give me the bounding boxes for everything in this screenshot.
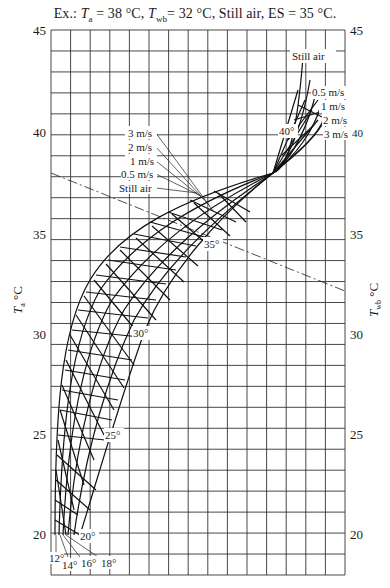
ytick-left-20: 20 bbox=[33, 527, 46, 542]
ytick-left-40: 40 bbox=[33, 125, 46, 140]
ytick-right-45: 45 bbox=[350, 23, 363, 38]
velocity-labels-left: 3 m/s 2 m/s 1 m/s 0.5 m/s Still air bbox=[117, 126, 157, 194]
et-label-20: 20° bbox=[80, 530, 95, 542]
grid bbox=[51, 30, 345, 575]
ytick-right-30: 30 bbox=[350, 327, 363, 342]
y-axis-right-title: Twb °C bbox=[366, 283, 383, 317]
velocity-still-air-top: Still air bbox=[292, 50, 325, 62]
velocity-still-air-left: Still air bbox=[119, 182, 152, 194]
ytick-left-35: 35 bbox=[33, 227, 46, 242]
ytick-right-20: 20 bbox=[350, 527, 363, 542]
velocity-2-left: 2 m/s bbox=[128, 141, 152, 153]
et-label-16: 16° bbox=[81, 557, 96, 569]
velocity-3-top: 3 m/s bbox=[324, 128, 348, 140]
ytick-right-25: 25 bbox=[350, 427, 363, 442]
right-margin-40: 40 bbox=[352, 127, 364, 139]
et-label-30: 30° bbox=[133, 327, 148, 339]
chart-canvas: 45 40 35 30 25 20 45 35 30 25 20 Ta °C T… bbox=[0, 0, 390, 588]
ytick-left-25: 25 bbox=[33, 427, 46, 442]
velocity-3-left: 3 m/s bbox=[128, 127, 152, 139]
y-axis-left-title: Ta °C bbox=[10, 286, 27, 314]
svg-text:Twb °C: Twb °C bbox=[366, 283, 383, 317]
et-label-40: 40° bbox=[279, 125, 294, 137]
svg-text:Ta °C: Ta °C bbox=[10, 286, 27, 314]
y-axis-right: 45 35 30 25 20 bbox=[350, 23, 363, 542]
et-label-14: 14° bbox=[62, 559, 77, 571]
et-label-18: 18° bbox=[101, 557, 116, 569]
ytick-left-45: 45 bbox=[33, 23, 46, 38]
velocity-1-top: 1 m/s bbox=[321, 100, 345, 112]
et-label-35: 35° bbox=[204, 238, 219, 250]
velocity-leader-lines bbox=[56, 133, 214, 557]
ytick-right-35: 35 bbox=[350, 227, 363, 242]
velocity-2-top: 2 m/s bbox=[323, 114, 347, 126]
et-label-25: 25° bbox=[105, 429, 120, 441]
velocity-05-top: 0.5 m/s bbox=[312, 86, 344, 98]
ytick-left-30: 30 bbox=[33, 327, 46, 342]
effective-temperature-labels: 40° 35° 30° 25° 20° 12° 14° 16° 18° bbox=[48, 124, 298, 571]
y-axis-left: 45 40 35 30 25 20 bbox=[33, 23, 46, 542]
velocity-labels-upper-right: Still air 0.5 m/s 1 m/s 2 m/s 3 m/s 40 bbox=[290, 49, 364, 140]
velocity-1-left: 1 m/s bbox=[130, 155, 154, 167]
velocity-05-left: 0.5 m/s bbox=[121, 168, 153, 180]
effective-temperature-nomogram: Ex.: Ta = 38 °C, Twb= 32 °C, Still air, … bbox=[0, 0, 390, 588]
